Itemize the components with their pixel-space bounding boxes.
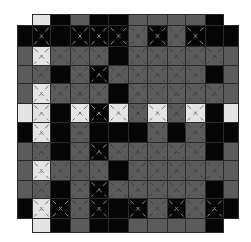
grid-cell-r2-c11[interactable]: [223, 46, 239, 66]
grid-cell-r9-c4[interactable]: [89, 180, 109, 199]
grid-cell-r9-c9[interactable]: [185, 180, 206, 199]
grid-cell-r8-c0[interactable]: [17, 160, 33, 181]
grid-cell-r5-c8[interactable]: [167, 103, 186, 123]
grid-cell-r4-c6[interactable]: [128, 83, 148, 104]
grid-cell-r8-c11[interactable]: [223, 160, 239, 181]
grid-cell-r2-c6[interactable]: [128, 46, 148, 66]
grid-cell-r10-c5[interactable]: [108, 198, 129, 219]
grid-cell-r8-c2[interactable]: [50, 160, 71, 181]
grid-cell-r10-c11[interactable]: [223, 198, 239, 219]
grid-cell-r6-c1[interactable]: [32, 122, 51, 143]
grid-cell-r1-c7[interactable]: [147, 25, 168, 47]
grid-cell-r7-c3[interactable]: [70, 142, 90, 161]
grid-cell-r6-c10[interactable]: [205, 122, 224, 143]
grid-cell-r9-c11[interactable]: [223, 180, 239, 199]
grid-cell-r10-c10[interactable]: [205, 198, 224, 219]
grid-cell-r10-c4[interactable]: [89, 198, 109, 219]
grid-cell-r10-c6[interactable]: [128, 198, 148, 219]
grid-cell-r5-c2[interactable]: [50, 103, 71, 123]
grid-cell-r9-c1[interactable]: [32, 180, 51, 199]
grid-cell-r5-c3[interactable]: [70, 103, 90, 123]
grid-cell-r9-c10[interactable]: [205, 180, 224, 199]
grid-cell-r4-c4[interactable]: [89, 83, 109, 104]
grid-cell-r3-c3[interactable]: [70, 65, 90, 84]
grid-cell-r3-c10[interactable]: [205, 65, 224, 84]
grid-cell-r8-c8[interactable]: [167, 160, 186, 181]
grid-cell-r3-c6[interactable]: [128, 65, 148, 84]
grid-cell-r10-c1[interactable]: [32, 198, 51, 219]
grid-cell-r4-c1[interactable]: [32, 83, 51, 104]
grid-cell-r3-c7[interactable]: [147, 65, 168, 84]
grid-cell-r7-c5[interactable]: [108, 142, 129, 161]
grid-cell-r8-c4[interactable]: [89, 160, 109, 181]
grid-cell-r1-c0[interactable]: [17, 25, 33, 47]
grid-cell-r6-c4[interactable]: [89, 122, 109, 143]
grid-cell-r3-c4[interactable]: [89, 65, 109, 84]
grid-cell-r5-c1[interactable]: [32, 103, 51, 123]
grid-cell-r10-c9[interactable]: [185, 198, 206, 219]
grid-cell-r4-c9[interactable]: [185, 83, 206, 104]
grid-cell-r2-c2[interactable]: [50, 46, 71, 66]
grid-cell-r1-c1[interactable]: [32, 25, 51, 47]
grid-cell-r8-c6[interactable]: [128, 160, 148, 181]
grid-cell-r10-c8[interactable]: [167, 198, 186, 219]
grid-cell-r7-c8[interactable]: [167, 142, 186, 161]
grid-cell-r9-c2[interactable]: [50, 180, 71, 199]
grid-cell-r6-c3[interactable]: [70, 122, 90, 143]
grid-cell-r11-c2[interactable]: [50, 218, 71, 233]
grid-cell-r3-c0[interactable]: [17, 65, 33, 84]
grid-cell-r9-c8[interactable]: [167, 180, 186, 199]
grid-cell-r7-c4[interactable]: [89, 142, 109, 161]
grid-cell-r3-c11[interactable]: [223, 65, 239, 84]
grid-cell-r6-c11[interactable]: [223, 122, 239, 143]
grid-cell-r2-c9[interactable]: [185, 46, 206, 66]
grid-cell-r7-c1[interactable]: [32, 142, 51, 161]
grid-cell-r10-c0[interactable]: [17, 198, 33, 219]
grid-cell-r7-c9[interactable]: [185, 142, 206, 161]
grid-cell-r5-c10[interactable]: [205, 103, 224, 123]
grid-cell-r8-c3[interactable]: [70, 160, 90, 181]
grid-cell-r10-c7[interactable]: [147, 198, 168, 219]
grid-cell-r5-c9[interactable]: [185, 103, 206, 123]
grid-cell-r5-c5[interactable]: [108, 103, 129, 123]
grid-cell-r7-c10[interactable]: [205, 142, 224, 161]
grid-cell-r6-c0[interactable]: [17, 122, 33, 143]
grid-cell-r5-c7[interactable]: [147, 103, 168, 123]
grid-cell-r8-c5[interactable]: [108, 160, 129, 181]
grid-cell-r2-c1[interactable]: [32, 46, 51, 66]
grid-cell-r4-c0[interactable]: [17, 83, 33, 104]
grid-cell-r8-c7[interactable]: [147, 160, 168, 181]
grid-cell-r7-c6[interactable]: [128, 142, 148, 161]
grid-cell-r4-c5[interactable]: [108, 83, 129, 104]
grid-cell-r9-c7[interactable]: [147, 180, 168, 199]
grid-cell-r3-c9[interactable]: [185, 65, 206, 84]
grid-cell-r1-c4[interactable]: [89, 25, 109, 47]
grid-cell-r4-c3[interactable]: [70, 83, 90, 104]
grid-cell-r7-c0[interactable]: [17, 142, 33, 161]
grid-cell-r4-c10[interactable]: [205, 83, 224, 104]
grid-cell-r2-c5[interactable]: [108, 46, 129, 66]
grid-cell-r7-c7[interactable]: [147, 142, 168, 161]
grid-cell-r1-c8[interactable]: [167, 25, 186, 47]
grid-cell-r5-c6[interactable]: [128, 103, 148, 123]
grid-cell-r3-c2[interactable]: [50, 65, 71, 84]
grid-cell-r6-c6[interactable]: [128, 122, 148, 143]
grid-cell-r6-c9[interactable]: [185, 122, 206, 143]
grid-cell-r11-c3[interactable]: [70, 218, 90, 233]
grid-cell-r9-c6[interactable]: [128, 180, 148, 199]
grid-cell-r11-c8[interactable]: [167, 218, 186, 233]
grid-cell-r5-c11[interactable]: [223, 103, 239, 123]
grid-cell-r1-c9[interactable]: [185, 25, 206, 47]
grid-cell-r4-c11[interactable]: [223, 83, 239, 104]
grid-cell-r11-c6[interactable]: [128, 218, 148, 233]
grid-cell-r8-c1[interactable]: [32, 160, 51, 181]
grid-cell-r9-c3[interactable]: [70, 180, 90, 199]
grid-cell-r7-c2[interactable]: [50, 142, 71, 161]
grid-cell-r1-c10[interactable]: [205, 25, 224, 47]
grid-cell-r8-c9[interactable]: [185, 160, 206, 181]
grid-cell-r2-c7[interactable]: [147, 46, 168, 66]
grid-cell-r2-c4[interactable]: [89, 46, 109, 66]
grid-cell-r7-c11[interactable]: [223, 142, 239, 161]
grid-cell-r6-c2[interactable]: [50, 122, 71, 143]
grid-cell-r4-c7[interactable]: [147, 83, 168, 104]
